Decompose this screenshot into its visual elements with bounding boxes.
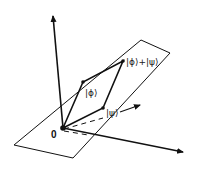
origin-point — [60, 125, 66, 131]
phi-point — [81, 80, 85, 84]
sum-point — [121, 59, 125, 63]
vector-addition-diagram: 0 |ϕ⟩ |ψ⟩ |ϕ⟩+|ψ⟩ — [0, 0, 199, 171]
sum-label: |ϕ⟩+|ψ⟩ — [126, 57, 159, 67]
psi-label: |ψ⟩ — [106, 108, 118, 118]
phi-label: |ϕ⟩ — [85, 88, 97, 98]
diagram-canvas: 0 |ϕ⟩ |ψ⟩ |ϕ⟩+|ψ⟩ — [0, 0, 199, 171]
psi-direction-arrow — [120, 105, 140, 112]
origin-label: 0 — [51, 129, 57, 140]
psi-point — [101, 106, 105, 110]
